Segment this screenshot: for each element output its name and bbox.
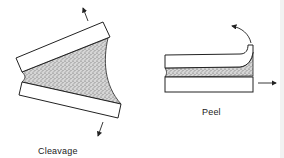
cleavage-figure	[16, 8, 121, 136]
cleavage-down-arrow-icon	[98, 122, 103, 136]
peel-figure	[165, 26, 276, 92]
diagram-svg	[0, 0, 284, 158]
scan-edge-strip	[280, 0, 284, 158]
peel-top-adherend	[165, 45, 253, 68]
diagram-canvas	[0, 0, 284, 158]
peel-bottom-adherend	[165, 77, 253, 92]
cleavage-label: Cleavage	[38, 146, 78, 156]
peel-label: Peel	[202, 107, 221, 117]
peel-curved-arrow-icon	[232, 26, 251, 43]
cleavage-up-arrow-icon	[83, 8, 88, 21]
